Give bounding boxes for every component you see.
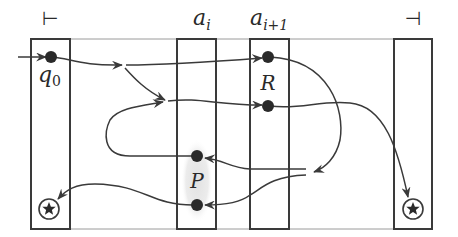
accept-star-icon-right (403, 199, 423, 219)
state-p-bottom-dot (191, 199, 203, 211)
path-p-bottom-to-left-accept (58, 184, 193, 205)
column-a-i-plus-1 (250, 39, 289, 229)
label-a-i-plus-1: ai+1 (250, 5, 288, 33)
label-left-endmarker: ⊢ (42, 7, 59, 29)
path-junction-branch (125, 68, 165, 100)
accept-star-icon-left (39, 199, 59, 219)
path-q0-to-junction (51, 57, 122, 65)
two-way-automaton-diagram: ⊢ ai ai+1 ⊣ q0 R P (0, 0, 458, 237)
path-r-bottom-to-right-accept (270, 102, 408, 197)
label-right-endmarker: ⊣ (405, 7, 422, 29)
path-p-top-loop (106, 102, 193, 156)
state-r-bottom-dot (262, 100, 274, 112)
state-r-top-dot (262, 51, 274, 63)
path-to-p-bottom (205, 175, 306, 205)
label-p: P (189, 169, 204, 193)
label-a-i: ai (193, 5, 211, 33)
path-to-p-top (205, 158, 306, 169)
label-q0: q0 (38, 62, 61, 89)
path-junction-to-r-top (126, 58, 262, 65)
label-r: R (259, 71, 275, 95)
path-r-top-curve (270, 57, 341, 172)
state-p-top-dot (191, 150, 203, 162)
